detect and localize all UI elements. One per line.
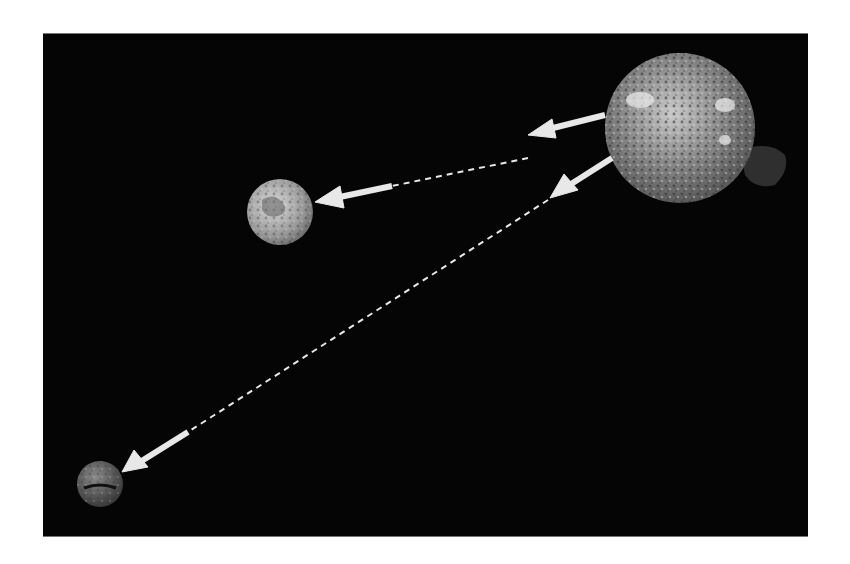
earth [247, 179, 313, 245]
sun [605, 53, 786, 203]
diagram-canvas [0, 0, 850, 564]
arrow-sun-to-mars [122, 158, 612, 472]
mars [77, 461, 123, 507]
